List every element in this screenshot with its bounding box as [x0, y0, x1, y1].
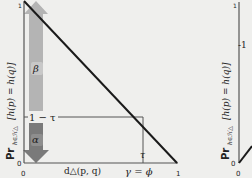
x-tick-left: 0 [21, 170, 25, 178]
one-minus-tau-label: 1 − τ [29, 112, 56, 123]
gamma-phi-label: γ = ϕ [125, 166, 153, 177]
right-y-tick-top: 1 [233, 2, 237, 9]
right-y-axis-label: Pr h∈ℋ△ [h(p) = h(q)] [220, 62, 233, 160]
decreasing-line [24, 1, 177, 163]
right-y-tick-mid: -1 [238, 40, 247, 50]
svg-text:h∈ℋ△: h∈ℋ△ [226, 126, 233, 145]
x-axis-label: d△(p, q) [64, 166, 101, 176]
y-tick-bottom: 0 [17, 160, 21, 168]
svg-text:Pr: Pr [220, 148, 231, 160]
right-increasing-line [239, 146, 252, 163]
beta-arrow [24, 1, 48, 118]
svg-text:h∈ℋ△: h∈ℋ△ [11, 126, 18, 145]
alpha-label: α [32, 134, 39, 145]
y-axis-label: Pr h∈ℋ△ [h(p) = h(q)] [5, 62, 18, 160]
right-x-tick-left: 0 [236, 170, 240, 178]
tau-label: τ [140, 150, 146, 160]
x-tick-right: 1 [176, 170, 180, 178]
svg-text:[h(p) = h(q)]: [h(p) = h(q)] [6, 62, 16, 120]
svg-text:[h(p) = h(q)]: [h(p) = h(q)] [221, 62, 231, 120]
y-tick-top: 1 [18, 2, 22, 9]
right-y-tick-bottom: 0 [231, 160, 235, 168]
beta-label: β [32, 63, 39, 74]
diagram-canvas: 1 0 0 1 1 − τ β α τ γ = ϕ d△(p, q) Pr h∈… [0, 0, 252, 178]
svg-text:Pr: Pr [5, 148, 16, 160]
